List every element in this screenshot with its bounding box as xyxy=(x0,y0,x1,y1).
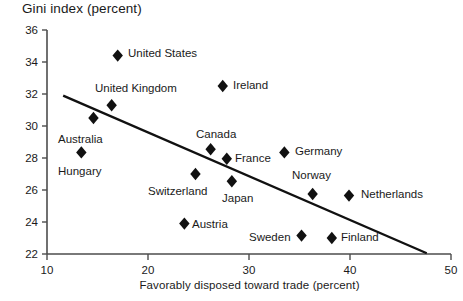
x-tick-label: 50 xyxy=(445,264,458,276)
x-tick-label: 40 xyxy=(344,264,357,276)
data-point-marker[interactable] xyxy=(279,146,289,158)
x-axis-title-text: Favorably disposed toward trade (percent… xyxy=(139,279,359,291)
data-point-label: Germany xyxy=(295,145,343,157)
data-point-label: Ireland xyxy=(233,79,268,91)
data-point-marker[interactable] xyxy=(76,146,86,158)
data-point-label: Canada xyxy=(196,128,237,140)
data-point-label: Austria xyxy=(192,218,228,230)
gini-trade-scatter-chart: Gini index (percent) 2224262830323436102… xyxy=(0,0,463,301)
plot-area: 22242628303234361020304050 United States… xyxy=(0,0,463,301)
data-point-marker[interactable] xyxy=(179,217,189,229)
data-point-label: Australia xyxy=(58,133,103,145)
x-tick-label: 30 xyxy=(243,264,256,276)
axes-group xyxy=(42,30,451,260)
data-point-marker[interactable] xyxy=(327,232,337,244)
data-point-label: United States xyxy=(128,47,197,59)
y-tick-label: 24 xyxy=(25,216,38,228)
x-tick-label: 20 xyxy=(142,264,155,276)
data-point-marker[interactable] xyxy=(106,99,116,111)
data-point-marker[interactable] xyxy=(227,175,237,187)
y-tick-label: 22 xyxy=(25,248,38,260)
y-tick-label: 28 xyxy=(25,152,38,164)
data-point-label: Norway xyxy=(292,169,331,181)
y-tick-label: 30 xyxy=(25,120,38,132)
data-point-label: Netherlands xyxy=(361,188,423,200)
data-point-label: Switzerland xyxy=(148,185,207,197)
y-tick-label: 34 xyxy=(25,56,38,68)
data-point-marker[interactable] xyxy=(296,229,306,241)
data-point-marker[interactable] xyxy=(112,49,122,61)
x-tick-label: 10 xyxy=(41,264,54,276)
y-tick-label: 32 xyxy=(25,88,38,100)
data-point-label: Japan xyxy=(222,192,253,204)
data-point-marker[interactable] xyxy=(222,153,232,165)
data-point-label: France xyxy=(235,152,271,164)
data-point-label: Finland xyxy=(341,231,379,243)
y-tick-label: 26 xyxy=(25,184,38,196)
data-point-label: Sweden xyxy=(249,231,291,243)
data-point-marker[interactable] xyxy=(344,189,354,201)
trend-line xyxy=(63,96,427,254)
y-tick-label: 36 xyxy=(25,24,38,36)
data-point-label: United Kingdom xyxy=(95,82,177,94)
data-point-marker[interactable] xyxy=(190,168,200,180)
data-point-marker[interactable] xyxy=(205,143,215,155)
data-point-marker[interactable] xyxy=(307,188,317,200)
data-point-marker[interactable] xyxy=(218,80,228,92)
point-labels-group: United StatesUnited KingdomAustraliaHung… xyxy=(58,47,423,243)
trendline-group xyxy=(63,96,427,254)
x-axis-title: Favorably disposed toward trade (percent… xyxy=(0,279,463,291)
data-point-marker[interactable] xyxy=(88,112,98,124)
data-point-label: Hungary xyxy=(58,165,102,177)
